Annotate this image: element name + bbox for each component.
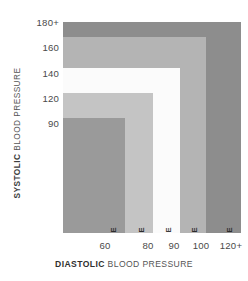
x-axis-title: DIASTOLIC BLOOD PRESSURE [0,259,248,269]
band-label-low-blood-pressure: LOW BLOOD PRESSURE [109,227,118,233]
blood-pressure-chart: VERY HIGH BLOOD PRESSURE HIGH BLOOD PRES… [0,0,248,281]
band-label-high-blood-pressure: HIGH BLOOD PRESSURE [190,227,199,233]
x-tick-60: 60 [99,240,110,251]
band-label-very-high-blood-pressure: VERY HIGH BLOOD PRESSURE [225,227,234,233]
y-axis-title-bold: SYSTOLIC [12,154,22,199]
x-axis-title-bold: DIASTOLIC [55,259,105,269]
x-axis-title-rest: BLOOD PRESSURE [105,259,193,269]
y-tick-140: 140 [42,68,59,79]
band-label-elevated-blood-pressure: ELEVATED BLOOD PRESSURE [164,227,173,233]
y-axis-title-rest: BLOOD PRESSURE [12,68,22,154]
band-low-blood-pressure: LOW BLOOD PRESSURE [63,118,125,233]
x-tick-100: 100 [193,240,210,251]
x-tick-120: 120+ [220,240,242,251]
plot-area: VERY HIGH BLOOD PRESSURE HIGH BLOOD PRES… [0,0,248,281]
y-tick-160: 160 [42,42,59,53]
x-tick-80: 80 [142,240,153,251]
y-axis-title: SYSTOLIC BLOOD PRESSURE [12,38,22,228]
y-tick-180: 180+ [37,17,59,28]
x-tick-90: 90 [168,240,179,251]
y-tick-120: 120 [42,93,59,104]
y-tick-90: 90 [48,118,59,129]
band-label-normal-blood-pressure: NORMAL BLOOD PRESSURE [137,227,146,233]
